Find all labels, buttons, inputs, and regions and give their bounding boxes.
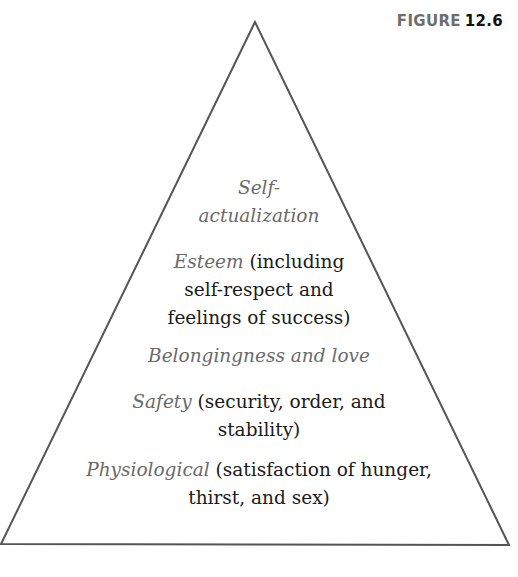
level-detail: thirst, and sex)	[188, 487, 330, 508]
level-self-actualization: Self- actualization	[0, 174, 518, 230]
level-line: actualization	[0, 202, 518, 230]
level-detail: (security, order, and	[192, 391, 386, 412]
level-line: thirst, and sex)	[0, 484, 518, 512]
level-line: Safety (security, order, and	[0, 388, 518, 416]
level-detail: (including	[244, 251, 345, 272]
level-line: self-respect and	[0, 276, 518, 304]
level-line: Self-	[0, 174, 518, 202]
level-line: Physiological (satisfaction of hunger,	[0, 456, 518, 484]
level-line: feelings of success)	[0, 304, 518, 332]
level-detail: feelings of success)	[168, 307, 351, 328]
level-term: Esteem	[174, 251, 244, 272]
level-term: Safety	[132, 391, 191, 412]
level-line: Esteem (including	[0, 248, 518, 276]
level-term: Belongingness and love	[148, 345, 370, 366]
level-line: stability)	[0, 416, 518, 444]
level-detail: (satisfaction of hunger,	[210, 459, 432, 480]
level-term: Physiological	[86, 459, 209, 480]
level-safety: Safety (security, order, and stability)	[0, 388, 518, 444]
level-line: Belongingness and love	[0, 342, 518, 370]
level-esteem: Esteem (including self-respect and feeli…	[0, 248, 518, 332]
level-term: Self-	[238, 177, 280, 198]
level-detail: stability)	[218, 419, 301, 440]
level-detail: self-respect and	[184, 279, 333, 300]
level-physiological: Physiological (satisfaction of hunger, t…	[0, 456, 518, 512]
level-belongingness: Belongingness and love	[0, 342, 518, 370]
level-term: actualization	[199, 205, 320, 226]
